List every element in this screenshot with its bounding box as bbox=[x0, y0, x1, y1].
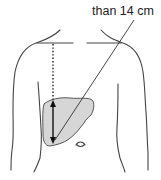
liver-shape bbox=[43, 98, 94, 146]
leader-line bbox=[55, 20, 134, 140]
liver-span-diagram: than 14 cm bbox=[0, 0, 161, 180]
navel-icon bbox=[76, 142, 85, 147]
measurement-label: than 14 cm bbox=[92, 4, 154, 18]
